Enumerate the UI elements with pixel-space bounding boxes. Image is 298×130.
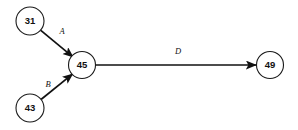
node-31: 31	[16, 7, 44, 35]
edge-label-b: B	[45, 79, 50, 89]
node-45: 45	[69, 52, 96, 79]
node-43-label: 43	[25, 102, 36, 113]
node-45-label: 45	[77, 59, 88, 70]
graph-diagram: A B D 31 45 43 49	[0, 0, 298, 130]
edge-label-d: D	[174, 46, 182, 56]
node-49-label: 49	[265, 59, 276, 70]
edge-label-a: A	[58, 26, 65, 36]
node-43: 43	[16, 94, 44, 122]
node-31-label: 31	[25, 15, 36, 26]
edge-a-line	[41, 30, 74, 57]
graph-canvas: A B D 31 45 43 49	[0, 0, 298, 130]
node-49: 49	[257, 52, 284, 79]
